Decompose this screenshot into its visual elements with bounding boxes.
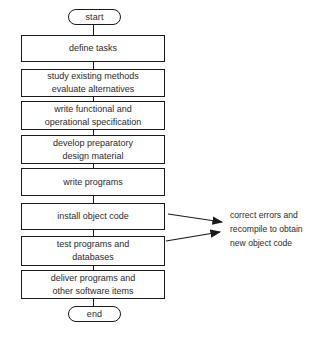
feedback-annotation: correct errors and recompile to obtain n… [230,208,303,250]
flowchart-node-write-programs[interactable]: write programs [21,168,165,196]
arrow-to-install-object-code [168,214,222,222]
node-line: test programs and [57,238,130,251]
flowchart-start-terminator[interactable]: start [68,9,121,25]
flowchart-node-define-tasks[interactable]: define tasks [21,35,165,62]
flowchart-node-develop-preparatory-design-material[interactable]: develop preparatory design material [21,135,165,164]
arrow-from-test-programs [166,232,220,241]
node-line: deliver programs and [51,272,136,285]
node-line: evaluate alternatives [52,83,135,96]
annotation-line: new object code [230,236,303,250]
flowchart-node-install-object-code[interactable]: install object code [21,203,165,230]
flowchart-node-write-functional-specification[interactable]: write functional and operational specifi… [21,101,165,130]
flowchart-start-label: start [85,13,103,22]
node-line: install object code [57,210,129,223]
flowchart-node-study-existing-methods[interactable]: study existing methods evaluate alternat… [21,69,165,97]
flowchart-canvas: start define tasks study existing method… [0,0,325,340]
flowchart-end-label: end [87,310,102,319]
node-line: design material [62,150,123,163]
node-line: develop preparatory [53,137,133,150]
node-line: define tasks [69,42,117,55]
node-line: databases [72,251,114,264]
connector-start-to-step1 [93,25,94,35]
node-line: other software items [52,285,133,298]
flowchart-node-test-programs-and-databases[interactable]: test programs and databases [21,236,165,266]
feedback-arrows [160,205,230,250]
annotation-line: recompile to obtain [230,222,303,236]
flowchart-end-terminator[interactable]: end [68,306,121,322]
annotation-line: correct errors and [230,208,303,222]
node-line: write programs [63,176,123,189]
flowchart-node-deliver-programs[interactable]: deliver programs and other software item… [21,270,165,299]
node-line: operational specification [45,116,142,129]
node-line: study existing methods [47,70,139,83]
node-line: write functional and [54,103,132,116]
